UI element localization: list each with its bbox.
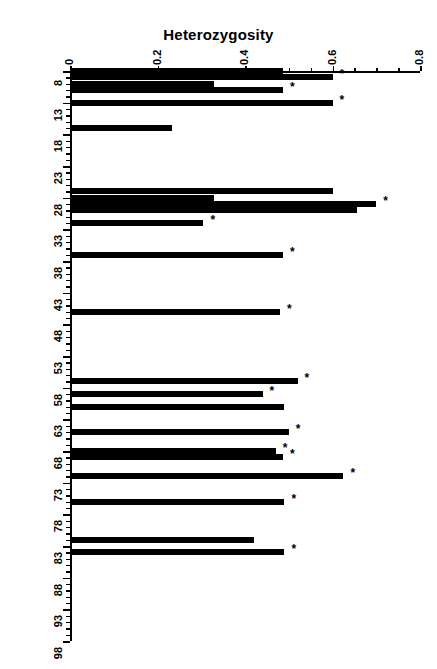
category-axis-minor-tick (66, 318, 70, 319)
category-axis-tick (63, 356, 70, 358)
category-axis-minor-tick (66, 267, 70, 268)
category-axis-minor-tick (66, 122, 70, 123)
bar (70, 201, 376, 207)
category-axis-tick (63, 261, 70, 263)
category-axis-minor-tick (66, 179, 70, 180)
category-axis-minor-tick (66, 331, 70, 332)
category-axis-minor-tick (66, 242, 70, 243)
category-axis-minor-tick (66, 185, 70, 186)
bar (70, 125, 172, 131)
category-axis-minor-tick (66, 635, 70, 636)
category-axis-minor-tick (66, 109, 70, 110)
category-axis-tick (63, 71, 70, 73)
category-axis-line (70, 71, 72, 641)
category-axis-minor-tick (66, 470, 70, 471)
bar (70, 68, 283, 74)
category-axis-tick (63, 546, 70, 548)
bar (70, 252, 283, 258)
category-axis-tick (63, 134, 70, 136)
category-axis-minor-tick (66, 217, 70, 218)
value-axis-tick (333, 66, 335, 71)
category-axis-tick (63, 388, 70, 390)
category-axis-tick (63, 198, 70, 200)
category-axis-tick (63, 166, 70, 168)
category-axis-minor-tick (66, 236, 70, 237)
category-axis-tick (63, 451, 70, 453)
significance-star: * (210, 217, 215, 223)
significance-star: * (270, 388, 275, 394)
significance-star: * (383, 198, 388, 204)
category-axis-tick-label: 58 (52, 388, 64, 412)
bar (70, 391, 263, 397)
category-axis-minor-tick (66, 305, 70, 306)
category-axis-tick-label: 68 (52, 451, 64, 475)
category-axis-minor-tick (66, 584, 70, 585)
significance-star: * (287, 306, 292, 312)
significance-star: * (364, 204, 369, 210)
category-axis-tick-label: 73 (52, 483, 64, 507)
category-axis-minor-tick (66, 160, 70, 161)
category-axis-minor-tick (66, 274, 70, 275)
category-axis-minor-tick (66, 248, 70, 249)
category-axis-tick (63, 641, 70, 643)
category-axis-minor-tick (66, 115, 70, 116)
significance-star: * (283, 445, 288, 451)
significance-star: * (296, 426, 301, 432)
category-axis-minor-tick (66, 590, 70, 591)
category-axis-tick-label: 33 (52, 229, 64, 253)
category-axis-minor-tick (66, 559, 70, 560)
category-axis-minor-tick (66, 153, 70, 154)
category-axis-minor-tick (66, 438, 70, 439)
value-axis-tick-label: 0.6 (326, 50, 338, 65)
value-axis-tick-label: 0.8 (413, 50, 425, 65)
category-axis-minor-tick (66, 527, 70, 528)
category-axis-minor-tick (66, 464, 70, 465)
significance-star: * (291, 546, 296, 552)
value-axis-minor-tick (289, 68, 291, 72)
value-axis-minor-tick (398, 68, 400, 72)
category-axis-tick-label: 23 (52, 166, 64, 190)
category-axis-minor-tick (66, 426, 70, 427)
significance-star: * (290, 451, 295, 457)
category-axis-minor-tick (66, 369, 70, 370)
category-axis-minor-tick (66, 603, 70, 604)
category-axis-minor-tick (66, 147, 70, 148)
category-axis-tick (63, 578, 70, 580)
category-axis-minor-tick (66, 413, 70, 414)
category-axis-minor-tick (66, 495, 70, 496)
plot-area: 00.20.40.60.8 81318232833384348535863687… (70, 71, 420, 641)
bar (70, 473, 343, 479)
bar (70, 499, 284, 505)
significance-star: * (290, 249, 295, 255)
category-axis-tick (63, 324, 70, 326)
category-axis-tick (63, 293, 70, 295)
bar (70, 309, 280, 315)
category-axis-minor-tick (66, 489, 70, 490)
category-axis-minor-tick (66, 362, 70, 363)
category-axis-minor-tick (66, 299, 70, 300)
category-axis-minor-tick (66, 616, 70, 617)
bar (70, 81, 214, 87)
bar (70, 195, 214, 201)
category-axis-tick-label: 48 (52, 324, 64, 348)
category-axis-minor-tick (66, 565, 70, 566)
category-axis-minor-tick (66, 533, 70, 534)
category-axis-tick-label: 53 (52, 356, 64, 380)
chart-title: Heterozygosity (0, 26, 437, 43)
category-axis-tick-label: 28 (52, 198, 64, 222)
bar (70, 100, 333, 106)
category-axis-minor-tick (66, 375, 70, 376)
category-axis-tick-label: 18 (52, 134, 64, 158)
category-axis-tick-label: 38 (52, 261, 64, 285)
category-axis-minor-tick (66, 400, 70, 401)
category-axis-minor-tick (66, 597, 70, 598)
category-axis-minor-tick (66, 280, 70, 281)
value-axis-tick-label: 0.2 (151, 50, 163, 65)
chart-figure: Heterozygosity 00.20.40.60.8 81318232833… (0, 0, 437, 669)
value-axis-tick-label: 0.4 (238, 50, 250, 65)
value-axis-minor-tick (311, 68, 313, 72)
category-axis-minor-tick (66, 172, 70, 173)
category-axis-minor-tick (66, 508, 70, 509)
category-axis-minor-tick (66, 96, 70, 97)
bar (70, 429, 289, 435)
